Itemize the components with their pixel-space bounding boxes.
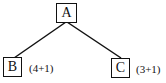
node-b: B xyxy=(3,57,22,77)
node-c-label: C xyxy=(116,61,125,75)
node-b-annotation: (4+1) xyxy=(29,63,54,74)
node-b-label: B xyxy=(8,60,17,74)
node-c: C xyxy=(111,58,130,78)
node-a-label: A xyxy=(61,6,71,20)
edge-a-c xyxy=(67,22,121,58)
node-a: A xyxy=(56,3,77,23)
edge-a-b xyxy=(14,22,66,58)
node-c-annotation: (3+1) xyxy=(136,64,161,75)
